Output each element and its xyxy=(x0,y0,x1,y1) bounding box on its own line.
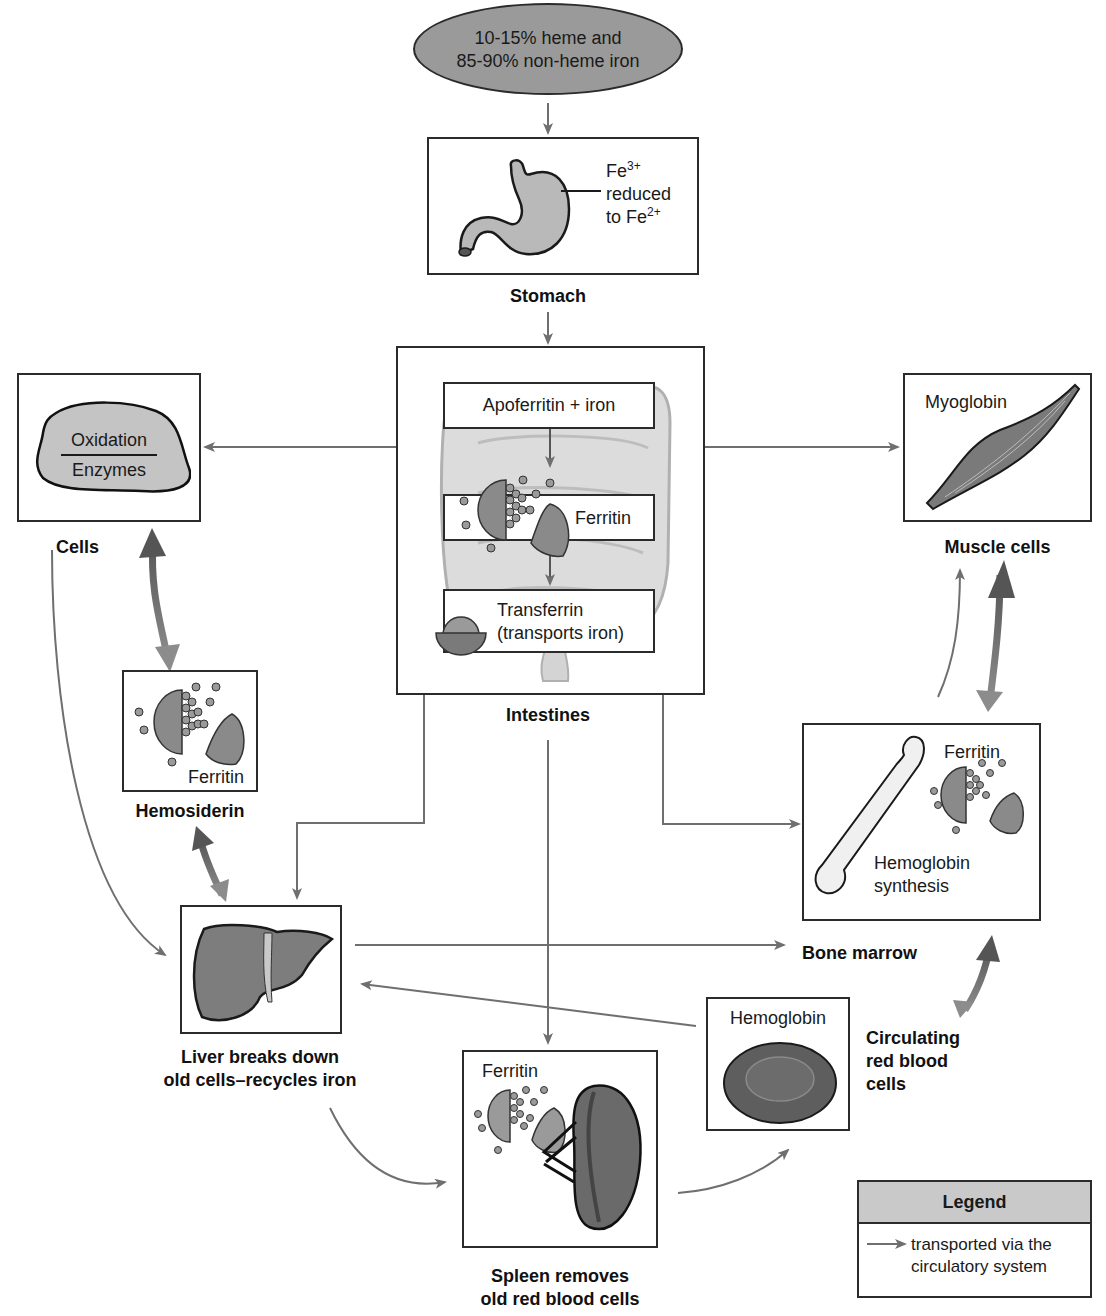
cells-box: Oxidation Enzymes xyxy=(17,373,201,522)
spleen-box: Ferritin xyxy=(462,1050,658,1248)
legend: Legend transported via the circulatory s… xyxy=(857,1180,1092,1298)
stomach-icon xyxy=(451,154,591,264)
rbc-hemoglobin-text: Hemoglobin xyxy=(708,1007,848,1030)
stomach-box: Fe3+ reduced to Fe2+ xyxy=(427,137,699,275)
source-line-2: 85-90% non-heme iron xyxy=(415,50,681,73)
myoglobin-text: Myoglobin xyxy=(925,391,1007,414)
liver-label: Liver breaks down old cells–recycles iro… xyxy=(130,1046,390,1092)
spleen-ferritin-text: Ferritin xyxy=(482,1060,538,1083)
liver-icon xyxy=(182,907,344,1036)
enzymes-text: Enzymes xyxy=(19,458,199,482)
legend-item: transported via the circulatory system xyxy=(859,1224,1090,1278)
liver-box xyxy=(180,905,342,1034)
intestines-box: Apoferritin + iron Ferritin Transferrin … xyxy=(396,346,705,695)
bone-marrow-box: Ferritin Hemoglobin synthesis xyxy=(802,723,1041,921)
hemoglobin-synthesis-text: Hemoglobin synthesis xyxy=(874,852,970,898)
arrow-bone-marrow-to-muscle xyxy=(938,570,960,697)
oxidation-text: Oxidation xyxy=(19,428,199,452)
stomach-annotation: Fe3+ reduced to Fe2+ xyxy=(606,160,671,229)
spleen-label: Spleen removes old red blood cells xyxy=(440,1265,680,1311)
fe3-text: Fe xyxy=(606,161,627,181)
hemoglobin-synthesis-line-1: Hemoglobin xyxy=(874,852,970,875)
legend-title: Legend xyxy=(859,1182,1090,1224)
spleen-label-line-2: old red blood cells xyxy=(440,1288,680,1311)
ferritin-molecule-icon xyxy=(460,476,569,556)
arrow-intestines-to-bone-marrow xyxy=(663,694,799,824)
intestines-overlay xyxy=(398,348,707,697)
hemosiderin-label: Hemosiderin xyxy=(110,800,270,823)
arrow-rbc-to-liver xyxy=(362,984,696,1026)
to-fe2-text: to Fe xyxy=(606,207,647,227)
liver-label-line-2: old cells–recycles iron xyxy=(130,1069,390,1092)
rbc-label-line-1: Circulating xyxy=(866,1027,986,1050)
double-arrow-bone-marrow-rbc xyxy=(953,935,1000,1018)
arrow-intestines-to-liver xyxy=(297,694,424,898)
cells-label: Cells xyxy=(56,536,136,559)
fe3-charge: 3+ xyxy=(627,159,641,173)
rbc-label-line-2: red blood xyxy=(866,1050,986,1073)
arrow-liver-to-spleen xyxy=(330,1108,445,1184)
muscle-label: Muscle cells xyxy=(903,536,1092,559)
hemosiderin-box: Ferritin xyxy=(122,670,258,792)
reduced-text: reduced xyxy=(606,183,671,206)
fe2-charge: 2+ xyxy=(647,205,661,219)
hemosiderin-ferritin-text: Ferritin xyxy=(188,766,244,789)
hemoglobin-synthesis-line-2: synthesis xyxy=(874,875,970,898)
iron-source-oval: 10-15% heme and 85-90% non-heme iron xyxy=(413,3,683,95)
source-line-1: 10-15% heme and xyxy=(415,27,681,50)
legend-arrow-icon xyxy=(867,1238,909,1250)
double-arrow-hemosiderin-liver xyxy=(192,826,229,902)
liver-label-line-1: Liver breaks down xyxy=(130,1046,390,1069)
double-arrow-muscle-bone-marrow xyxy=(976,560,1015,712)
arrow-spleen-to-rbc xyxy=(678,1150,788,1193)
fraction-divider xyxy=(61,454,157,456)
intestines-label: Intestines xyxy=(448,704,648,727)
rbc-label: Circulating red blood cells xyxy=(866,1027,986,1096)
cells-inner-text: Oxidation Enzymes xyxy=(19,428,199,482)
bone-marrow-ferritin-text: Ferritin xyxy=(944,741,1000,764)
legend-item-line-2: circulatory system xyxy=(911,1256,1082,1278)
bone-marrow-label: Bone marrow xyxy=(802,942,942,965)
legend-item-line-1: transported via the xyxy=(911,1234,1082,1256)
stomach-annotation-leader xyxy=(561,190,601,192)
stomach-label: Stomach xyxy=(448,285,648,308)
muscle-box: Myoglobin xyxy=(903,373,1092,522)
transferrin-molecule-icon xyxy=(436,617,486,655)
rbc-label-line-3: cells xyxy=(866,1073,986,1096)
spleen-label-line-1: Spleen removes xyxy=(440,1265,680,1288)
double-arrow-cells-hemosiderin xyxy=(139,528,180,672)
rbc-box: Hemoglobin xyxy=(706,997,850,1131)
